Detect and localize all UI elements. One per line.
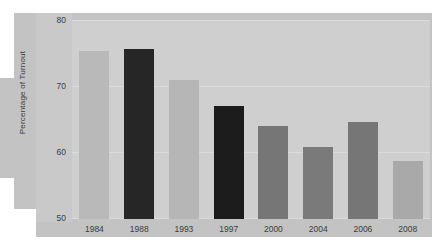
y-axis-title: Percentage of Turnout xyxy=(18,33,27,153)
x-tick-label-1988: 1988 xyxy=(117,224,162,234)
bar-2006 xyxy=(348,122,378,220)
x-tick-label-1993: 1993 xyxy=(162,224,207,234)
bar-1997 xyxy=(214,106,244,219)
y-tick-label-70: 70 xyxy=(40,81,66,91)
x-tick-label-2004: 2004 xyxy=(296,224,341,234)
bar-1984 xyxy=(79,51,109,220)
y-tick-label-50: 50 xyxy=(40,213,66,223)
x-axis-labels: 19841988199319972000200420062008 xyxy=(72,224,430,238)
x-tick-label-1984: 1984 xyxy=(72,224,117,234)
x-tick-label-2006: 2006 xyxy=(341,224,386,234)
y-tick-label-60: 60 xyxy=(40,147,66,157)
y-axis-strip xyxy=(36,13,72,222)
bars-layer xyxy=(72,20,430,219)
x-tick-label-2008: 2008 xyxy=(385,224,430,234)
bar-2004 xyxy=(303,147,333,219)
y-tick-label-80: 80 xyxy=(40,15,66,25)
bar-1988 xyxy=(124,49,154,219)
bar-1993 xyxy=(169,80,199,219)
bar-2008 xyxy=(393,161,423,219)
chart-screenshot: Percentage of Turnout 80 70 60 50 198419… xyxy=(0,0,432,246)
x-tick-label-2000: 2000 xyxy=(251,224,296,234)
bar-2000 xyxy=(258,126,288,220)
x-tick-label-1997: 1997 xyxy=(206,224,251,234)
